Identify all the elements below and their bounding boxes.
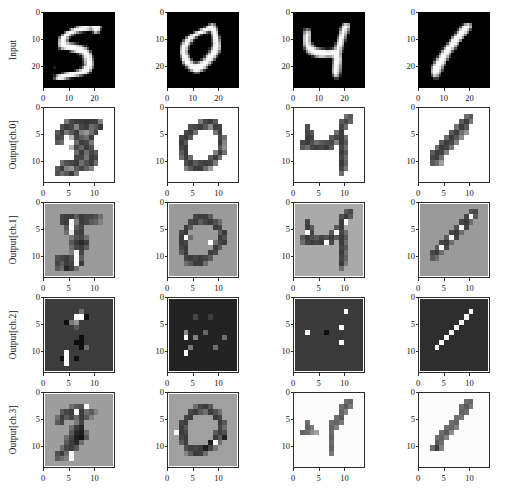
y-tick-labels: 0510 xyxy=(150,297,164,373)
x-tick-label: 5 xyxy=(67,378,71,388)
y-tick-mark xyxy=(41,229,44,230)
y-tick-label: 10 xyxy=(32,441,41,451)
y-tick-mark xyxy=(41,12,44,13)
plot-area xyxy=(167,12,239,88)
y-tick-label: 0 xyxy=(286,7,290,17)
y-tick-labels: 0510 xyxy=(26,107,40,183)
y-tick-labels: 0510 xyxy=(276,202,290,278)
y-tick-label: 0 xyxy=(411,387,415,397)
plot-area xyxy=(293,107,365,183)
x-tick-label: 5 xyxy=(191,188,195,198)
y-tick-mark xyxy=(291,392,294,393)
y-tick-labels: 0510 xyxy=(401,202,415,278)
plot-area xyxy=(167,202,239,278)
y-tick-label: 5 xyxy=(160,414,164,424)
y-tick-mark xyxy=(416,66,419,67)
y-tick-label: 10 xyxy=(407,346,416,356)
plot-area xyxy=(418,12,490,88)
x-tick-label: 10 xyxy=(214,283,223,293)
x-tick-label: 5 xyxy=(67,473,71,483)
x-tick-labels: 0510 xyxy=(43,376,115,388)
y-tick-label: 10 xyxy=(156,346,165,356)
y-tick-mark xyxy=(416,446,419,447)
x-tick-label: 10 xyxy=(90,188,99,198)
plot-area xyxy=(167,392,239,468)
x-tick-label: 10 xyxy=(64,93,73,103)
x-tick-label: 10 xyxy=(439,93,448,103)
plot-area xyxy=(167,297,239,373)
row-label-text: Input xyxy=(8,40,18,60)
x-tick-label: 0 xyxy=(165,473,169,483)
x-tick-label: 10 xyxy=(340,473,349,483)
y-tick-mark xyxy=(291,39,294,40)
y-tick-mark xyxy=(165,419,168,420)
y-tick-mark xyxy=(416,107,419,108)
y-tick-mark xyxy=(416,324,419,325)
y-tick-labels: 01020 xyxy=(401,12,415,88)
x-tick-label: 20 xyxy=(90,93,99,103)
y-tick-label: 0 xyxy=(160,197,164,207)
heatmap-grid xyxy=(45,394,113,466)
y-tick-mark xyxy=(291,419,294,420)
panel-output-ch3-col3: 05100510 xyxy=(293,392,365,468)
y-tick-label: 10 xyxy=(156,156,165,166)
y-tick-mark xyxy=(291,107,294,108)
panel-input-col3: 0102001020 xyxy=(293,12,365,88)
y-tick-mark xyxy=(165,39,168,40)
y-tick-mark xyxy=(41,351,44,352)
y-tick-mark xyxy=(41,66,44,67)
plot-area xyxy=(293,202,365,278)
x-tick-label: 20 xyxy=(340,93,349,103)
heatmap-grid xyxy=(169,109,237,181)
y-tick-mark xyxy=(416,351,419,352)
heatmap-grid xyxy=(169,204,237,276)
x-tick-labels: 0510 xyxy=(167,281,239,293)
panel-output-ch3-col1: 05100510 xyxy=(43,392,115,468)
y-tick-mark xyxy=(41,39,44,40)
x-tick-labels: 0510 xyxy=(418,186,490,198)
y-tick-mark xyxy=(41,161,44,162)
x-tick-label: 0 xyxy=(41,473,45,483)
x-tick-label: 5 xyxy=(191,283,195,293)
panel-output-ch0-col1: 05100510 xyxy=(43,107,115,183)
x-tick-label: 20 xyxy=(214,93,223,103)
y-tick-mark xyxy=(41,256,44,257)
y-tick-mark xyxy=(291,161,294,162)
x-tick-label: 0 xyxy=(291,378,295,388)
x-tick-label: 0 xyxy=(41,188,45,198)
y-tick-mark xyxy=(165,107,168,108)
x-tick-labels: 0510 xyxy=(418,471,490,483)
y-tick-label: 0 xyxy=(286,197,290,207)
y-tick-label: 0 xyxy=(160,102,164,112)
x-tick-label: 5 xyxy=(191,473,195,483)
y-tick-label: 5 xyxy=(286,319,290,329)
plot-area xyxy=(43,107,115,183)
x-tick-labels: 0510 xyxy=(418,376,490,388)
x-tick-label: 5 xyxy=(317,378,321,388)
plot-area xyxy=(418,202,490,278)
panel-output-ch2-col2: 05100510 xyxy=(167,297,239,373)
heatmap-grid xyxy=(169,394,237,466)
y-tick-label: 0 xyxy=(286,387,290,397)
y-tick-labels: 0510 xyxy=(150,202,164,278)
y-tick-mark xyxy=(416,161,419,162)
x-tick-label: 5 xyxy=(317,283,321,293)
heatmap-grid xyxy=(45,299,113,371)
y-tick-label: 0 xyxy=(160,387,164,397)
y-tick-label: 0 xyxy=(36,102,40,112)
x-tick-label: 0 xyxy=(165,188,169,198)
row-label-text: Output[ch.3] xyxy=(8,406,18,455)
x-tick-labels: 0510 xyxy=(293,471,365,483)
panel-output-ch2-col3: 05100510 xyxy=(293,297,365,373)
y-tick-mark xyxy=(165,351,168,352)
plot-area xyxy=(43,12,115,88)
y-tick-mark xyxy=(165,324,168,325)
y-tick-mark xyxy=(416,134,419,135)
y-tick-mark xyxy=(165,446,168,447)
y-tick-mark xyxy=(165,297,168,298)
y-tick-mark xyxy=(165,256,168,257)
x-tick-label: 5 xyxy=(191,378,195,388)
y-tick-label: 10 xyxy=(282,251,291,261)
y-tick-label: 0 xyxy=(36,7,40,17)
panel-output-ch0-col2: 05100510 xyxy=(167,107,239,183)
